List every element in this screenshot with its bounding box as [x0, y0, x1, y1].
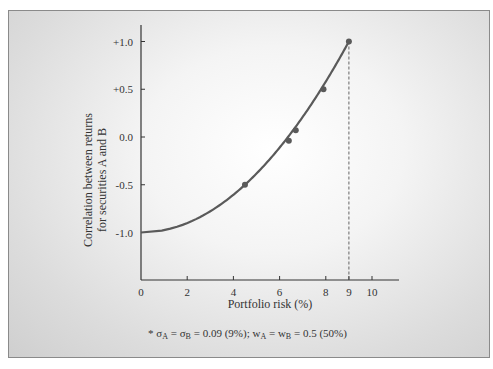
- axes: [141, 25, 399, 280]
- chart-svg: +1.0+0.50.0-0.5-1.002468910 Portfolio ri…: [0, 0, 493, 369]
- y-tick-label: +1.0: [113, 36, 133, 48]
- x-tick-label: 2: [184, 286, 190, 298]
- x-tick-label: 10: [367, 286, 379, 298]
- y-tick-label: -1.0: [116, 227, 134, 239]
- x-tick-label: 9: [346, 286, 352, 298]
- x-tick-label: 8: [323, 286, 329, 298]
- y-axis-title-line2-text: for securities A and B: [95, 128, 109, 232]
- data-point-marker: [286, 138, 292, 144]
- y-tick-label: -0.5: [116, 179, 134, 191]
- x-tick-label: 0: [138, 286, 144, 298]
- data-point-marker: [320, 86, 326, 92]
- footnote-part: * σ: [148, 327, 162, 339]
- ticks: +1.0+0.50.0-0.5-1.002468910: [113, 36, 378, 299]
- series: [141, 39, 352, 281]
- y-tick-label: +0.5: [113, 83, 133, 95]
- footnote-part: = σ: [168, 327, 186, 339]
- risk-curve: [141, 42, 349, 233]
- data-point-marker: [293, 127, 299, 133]
- y-axis-title-line2: for securities A and B: [95, 128, 109, 232]
- footnote-part: = w: [266, 327, 286, 339]
- footnote: * σA = σB = 0.09 (9%); wA = wB = 0.5 (50…: [148, 327, 347, 341]
- data-point-marker: [242, 182, 248, 188]
- data-point-marker: [346, 39, 352, 45]
- y-axis-title-line1: Correlation between returns: [81, 113, 95, 247]
- footnote-part: = 0.5 (50%): [291, 327, 347, 340]
- y-tick-label: 0.0: [119, 131, 133, 143]
- footnote-part: = 0.09 (9%); w: [191, 327, 260, 340]
- x-axis-title: Portfolio risk (%): [228, 297, 313, 311]
